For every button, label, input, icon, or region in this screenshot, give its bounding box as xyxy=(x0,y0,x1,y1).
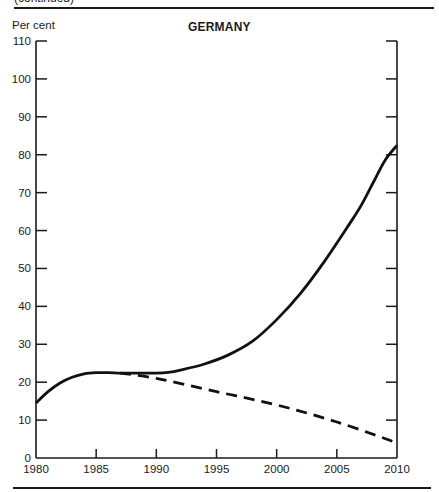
x-axis-ticks: 1980198519901995200020052010 xyxy=(23,449,410,475)
x-tick-label: 2005 xyxy=(324,463,350,475)
x-tick-label: 2000 xyxy=(264,463,290,475)
y-tick-label: 40 xyxy=(18,300,31,312)
x-tick-label: 1990 xyxy=(144,463,170,475)
y-tick-label: 80 xyxy=(18,149,31,161)
x-tick-label: 1980 xyxy=(23,463,49,475)
y-tick-label: 70 xyxy=(18,187,31,199)
bottom-rule xyxy=(13,487,431,489)
y-tick-label: 60 xyxy=(18,225,31,237)
y-tick-label: 110 xyxy=(13,35,31,47)
y-tick-label: 50 xyxy=(18,262,31,274)
y-axis-ticks: 0102030405060708090100110 xyxy=(12,35,397,464)
y-tick-label: 20 xyxy=(18,376,31,388)
chart-axes xyxy=(36,41,397,458)
y-tick-label: 30 xyxy=(18,338,31,350)
x-tick-label: 1995 xyxy=(204,463,230,475)
dashed-series-line xyxy=(120,373,397,443)
solid-series-line xyxy=(36,145,397,403)
y-tick-label: 100 xyxy=(12,73,31,85)
y-tick-label: 90 xyxy=(18,111,31,123)
line-chart: 0102030405060708090100110 19801985199019… xyxy=(0,0,439,492)
x-tick-label: 2010 xyxy=(384,463,410,475)
chart-series xyxy=(36,145,397,443)
y-tick-label: 10 xyxy=(18,414,31,426)
x-tick-label: 1985 xyxy=(83,463,109,475)
